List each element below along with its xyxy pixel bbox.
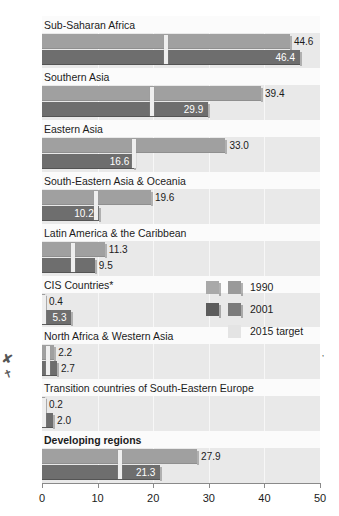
x-tick-10 [98,483,99,488]
target-marker-2015 [118,450,122,479]
value-label-2001: 16.6 [110,156,129,167]
legend-label-1990: 1990 [250,280,273,294]
value-label-1990: 19.6 [155,192,174,203]
value-label-2001: 46.4 [276,52,295,63]
value-label-2001: 9.5 [99,260,113,271]
value-label-2001: 29.9 [184,104,203,115]
category-label: Sub-Saharan Africa [44,19,135,31]
value-label-1990: 39.4 [265,88,284,99]
category-label: Eastern Asia [44,123,103,135]
target-marker-2015 [42,295,46,324]
legend-swatch-2001-a [206,303,219,316]
target-marker-2015 [132,139,136,168]
category-label: Transition countries of South-Eastern Eu… [44,382,254,394]
target-marker-2015 [150,87,154,116]
x-tick-50 [320,483,321,488]
value-label-2001: 2.7 [61,363,75,374]
gridline-40 [264,16,265,483]
target-marker-2015 [94,191,98,220]
legend-swatch-1990-b [228,281,241,294]
x-tick-0 [42,483,43,488]
legend-swatch-1990-a [206,281,219,294]
x-tick-label-20: 20 [138,492,168,505]
value-label-1990: 27.9 [201,451,220,462]
x-tick-label-50: 50 [305,492,335,505]
value-label-1990: 33.0 [229,140,248,151]
x-axis-line [42,483,321,484]
legend-item-2001: 2001 [206,300,326,322]
target-marker-2015 [42,398,46,427]
value-label-1990: 11.3 [109,244,128,255]
x-tick-label-0: 0 [27,492,57,505]
value-label-1990: 44.6 [294,36,313,47]
scan-artifact-left: ✘ [1,351,14,366]
value-label-2001: 10.2 [74,208,93,219]
scan-artifact-left-2: ✝ [2,367,15,382]
value-label-1990: 2.2 [58,347,72,358]
chart-figure: Sub-Saharan Africa44.646.4Southern Asia3… [0,0,339,516]
category-label: Latin America & the Caribbean [44,227,186,239]
category-label: Developing regions [44,434,141,446]
legend-label-2015-target: 2015 target [250,324,303,338]
value-label-1990: 0.4 [49,296,63,307]
x-tick-label-10: 10 [83,492,113,505]
bar-2001 [42,258,95,273]
value-label-2001: 2.0 [57,415,71,426]
target-marker-2015 [164,35,168,64]
target-marker-2015 [46,346,50,375]
legend-swatch-2015-target [228,325,241,338]
category-label: CIS Countries* [44,279,113,291]
category-label: Southern Asia [44,71,109,83]
category-label: North Africa & Western Asia [44,330,173,342]
category-label: South-Eastern Asia & Oceania [44,175,186,187]
bar-2001 [42,50,300,65]
legend-label-2001: 2001 [250,302,273,316]
legend-item-1990: 1990 [206,278,326,300]
x-tick-20 [153,483,154,488]
value-label-1990: 0.2 [49,399,63,410]
value-label-2001: 5.3 [53,312,67,323]
x-tick-label-40: 40 [249,492,279,505]
plot-area: Sub-Saharan Africa44.646.4Southern Asia3… [42,16,320,483]
scan-artifact-right: ’ [322,352,324,365]
x-tick-label-30: 30 [194,492,224,505]
legend-item-2015-target: 2015 target [206,322,326,344]
x-tick-40 [264,483,265,488]
value-label-2001: 21.3 [136,467,155,478]
x-tick-30 [209,483,210,488]
target-marker-2015 [71,243,75,272]
legend-swatch-2001-b [228,303,241,316]
chart-legend: 1990 2001 2015 target [206,278,326,344]
